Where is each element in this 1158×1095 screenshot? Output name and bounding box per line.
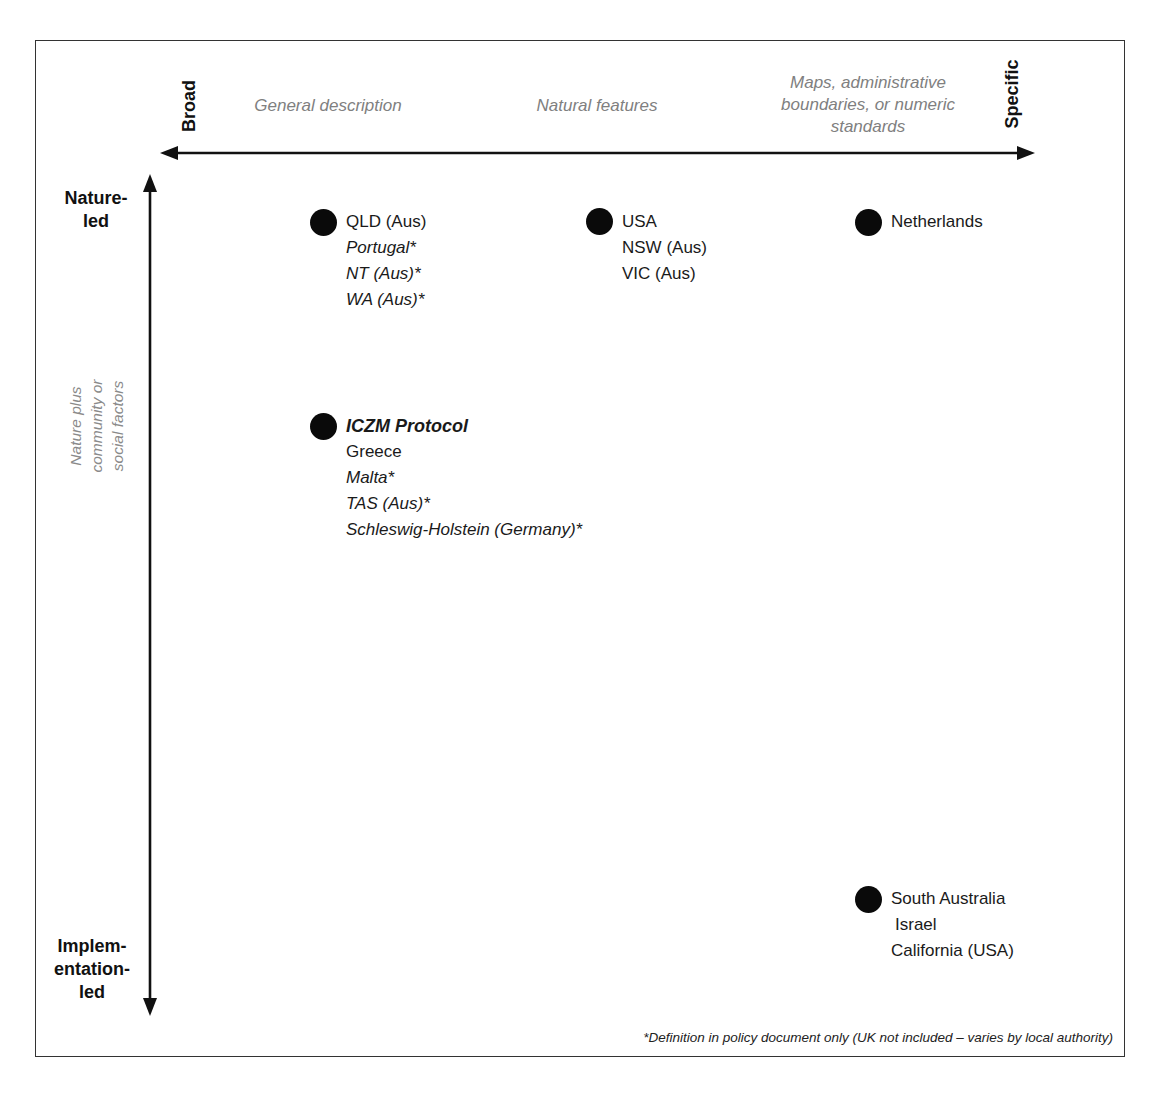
y-axis-bottom-label: Implem- entation- led xyxy=(44,935,140,1004)
group-item: VIC (Aus) xyxy=(622,261,707,287)
x-category-maps-line-2: boundaries, or numeric xyxy=(758,94,978,116)
group-item: TAS (Aus)* xyxy=(346,491,582,517)
horizontal-arrow xyxy=(160,146,1035,160)
x-axis-right-label: Specific xyxy=(1001,59,1023,129)
x-category-maps: Maps, administrative boundaries, or nume… xyxy=(758,72,978,138)
y-axis-bottom-line-3: led xyxy=(44,981,140,1004)
marker-dot xyxy=(310,209,337,236)
group-item: Greece xyxy=(346,439,582,465)
y-axis-bottom-line-2: entation- xyxy=(44,958,140,981)
y-axis-middle-line-2: community or xyxy=(86,356,107,496)
group-item: Malta* xyxy=(346,465,582,491)
x-category-natural-features: Natural features xyxy=(507,95,687,117)
y-axis-middle-line-1: Nature plus xyxy=(65,356,86,496)
x-category-maps-line-3: standards xyxy=(758,116,978,138)
group-item: USA xyxy=(622,209,707,235)
y-axis-middle-line-3: social factors xyxy=(107,356,128,496)
y-axis-top-line-1: Nature- xyxy=(48,187,144,210)
group-specific-nature: Netherlands xyxy=(891,209,983,235)
group-item: WA (Aus)* xyxy=(346,287,426,313)
footnote: *Definition in policy document only (UK … xyxy=(643,1030,1113,1045)
group-broad-community: ICZM Protocol Greece Malta* TAS (Aus)* S… xyxy=(346,413,582,543)
group-broad-nature: QLD (Aus) Portugal* NT (Aus)* WA (Aus)* xyxy=(346,209,426,313)
x-category-maps-line-1: Maps, administrative xyxy=(758,72,978,94)
group-natural-features-nature: USA NSW (Aus) VIC (Aus) xyxy=(622,209,707,287)
group-item: Israel xyxy=(891,912,1014,938)
x-axis-left-label: Broad xyxy=(178,76,200,136)
y-axis-bottom-line-1: Implem- xyxy=(44,935,140,958)
group-item: South Australia xyxy=(891,886,1014,912)
vertical-arrow xyxy=(143,174,157,1016)
y-axis-top-line-2: led xyxy=(48,210,144,233)
y-axis-top-label: Nature- led xyxy=(48,187,144,233)
marker-dot xyxy=(310,413,337,440)
group-item: NSW (Aus) xyxy=(622,235,707,261)
y-axis-middle-label: Nature plus community or social factors xyxy=(65,356,129,496)
group-item: ICZM Protocol xyxy=(346,413,582,439)
marker-dot xyxy=(586,208,613,235)
group-item: QLD (Aus) xyxy=(346,209,426,235)
x-category-general-description: General description xyxy=(228,95,428,117)
group-item: Portugal* xyxy=(346,235,426,261)
marker-dot xyxy=(855,886,882,913)
group-item: California (USA) xyxy=(891,938,1014,964)
marker-dot xyxy=(855,209,882,236)
group-item: NT (Aus)* xyxy=(346,261,426,287)
group-item: Netherlands xyxy=(891,209,983,235)
group-specific-implementation: South Australia Israel California (USA) xyxy=(891,886,1014,964)
group-item: Schleswig-Holstein (Germany)* xyxy=(346,517,582,543)
